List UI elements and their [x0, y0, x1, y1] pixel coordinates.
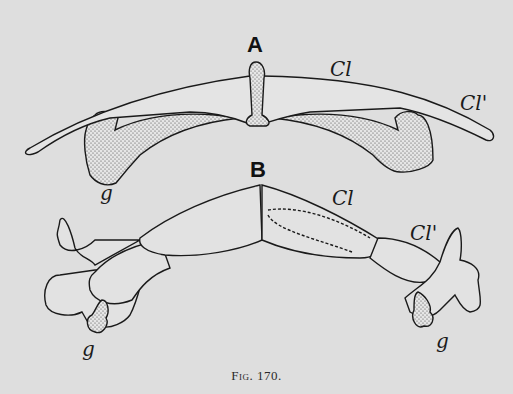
label-b-cl: Cl [332, 186, 354, 210]
label-b-g-left: g [82, 337, 95, 361]
right-stipple-region [273, 112, 433, 173]
right-clavicle [262, 185, 381, 258]
label-b-g-right: g [436, 329, 449, 353]
label-a-cl: Cl [330, 57, 352, 81]
panel-a-label: A [247, 32, 263, 57]
figure-caption: Fig. 170. [0, 368, 513, 384]
panel-b-label: B [250, 157, 266, 182]
left-clavicle [140, 185, 262, 256]
label-b-cl-prime: Cl' [410, 221, 437, 245]
panel-b [45, 185, 481, 333]
label-a-cl-prime: Cl' [460, 91, 487, 115]
label-a-g: g [100, 181, 113, 205]
anatomical-figure: A Cl Cl' g B Cl Cl' g g [0, 0, 513, 394]
left-stipple-region [85, 112, 240, 185]
